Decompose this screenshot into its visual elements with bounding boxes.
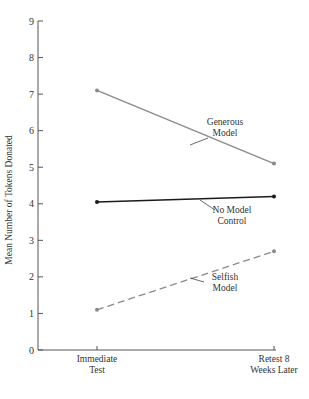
y-tick-label: 9 [29, 16, 34, 27]
data-point [95, 200, 99, 204]
line-chart: 0123456789 ImmediateTestRetest 8Weeks La… [0, 0, 309, 399]
series-label: No Model [213, 205, 252, 215]
series-label: Generous [207, 117, 244, 127]
data-point [272, 194, 276, 198]
x-tick-label: Retest 8 [259, 354, 290, 364]
series-no-model-control: No ModelControl [95, 194, 276, 226]
y-tick-label: 7 [29, 89, 34, 100]
x-tick-label: Immediate [77, 354, 118, 364]
y-tick-label: 1 [29, 308, 34, 319]
y-tick-label: 8 [29, 52, 34, 63]
y-tick-label: 0 [29, 345, 34, 356]
data-point [95, 308, 99, 312]
series-label: Model [213, 283, 238, 293]
y-axis-label: Mean Number of Tokens Donated [4, 135, 14, 265]
x-tick-label: Weeks Later [250, 365, 298, 375]
y-tick-label: 4 [29, 198, 34, 209]
y-tick-label: 6 [29, 125, 34, 136]
series-label: Model [213, 128, 238, 138]
series-layer: GenerousModelNo ModelControlSelfishModel [95, 88, 276, 311]
data-point [272, 249, 276, 253]
y-axis: 0123456789 [29, 16, 43, 356]
series-selfish-model: SelfishModel [95, 249, 276, 311]
series-label: Selfish [212, 272, 239, 282]
y-tick-label: 3 [29, 235, 34, 246]
y-tick-label: 2 [29, 271, 34, 282]
y-tick-label: 5 [29, 162, 34, 173]
series-generous-model: GenerousModel [95, 88, 276, 165]
x-axis: ImmediateTestRetest 8Weeks Later [38, 346, 299, 375]
data-point [95, 88, 99, 92]
series-label: Control [217, 216, 246, 226]
x-tick-label: Test [89, 365, 105, 375]
data-point [272, 162, 276, 166]
